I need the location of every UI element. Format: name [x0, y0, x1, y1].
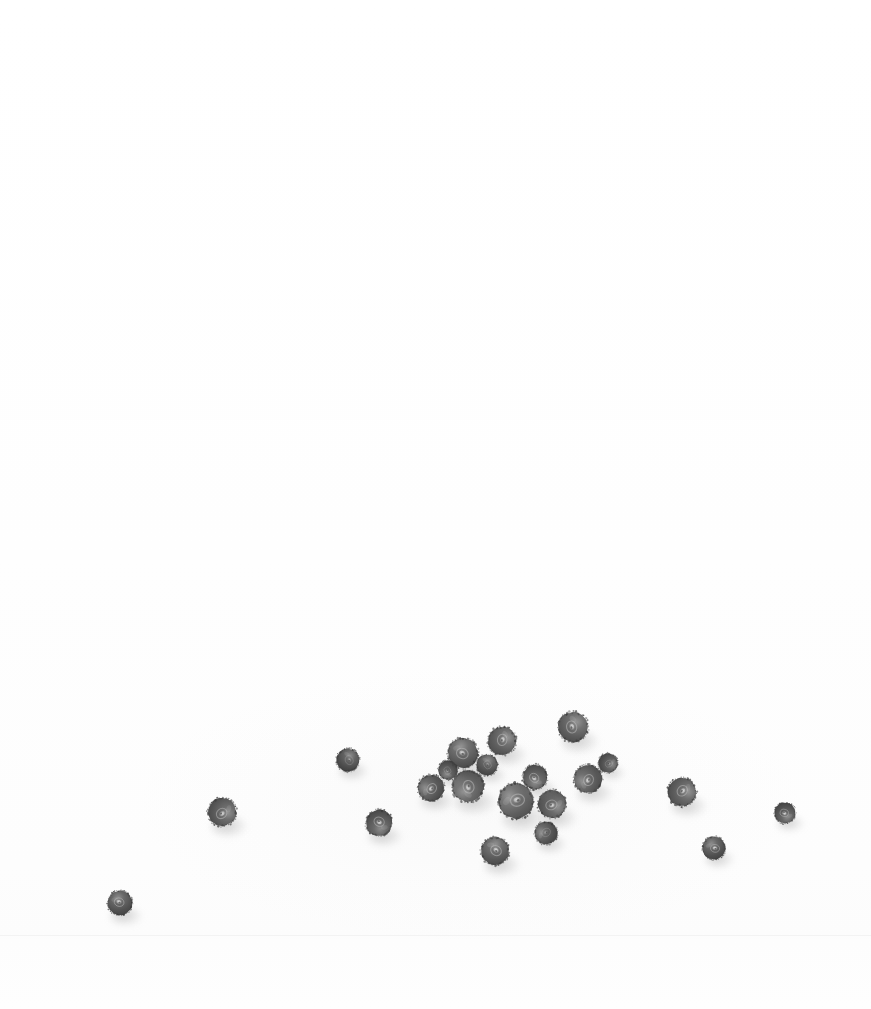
blueberry [437, 759, 459, 781]
blueberry [364, 808, 394, 838]
blueberry [479, 835, 511, 867]
photograph-canvas [0, 0, 871, 1009]
surface-seam-line [0, 935, 871, 936]
blueberry [556, 710, 590, 744]
blueberry [701, 835, 727, 861]
blueberry [521, 763, 549, 791]
blueberry [335, 747, 361, 773]
blueberry [773, 801, 797, 825]
blueberry [533, 820, 559, 846]
blueberry [475, 753, 499, 777]
blueberry [666, 776, 698, 808]
blueberry [106, 889, 134, 917]
blueberry-body [699, 833, 729, 863]
blueberry [206, 796, 238, 828]
white-surface-background [0, 0, 871, 1009]
blueberry [597, 752, 619, 774]
